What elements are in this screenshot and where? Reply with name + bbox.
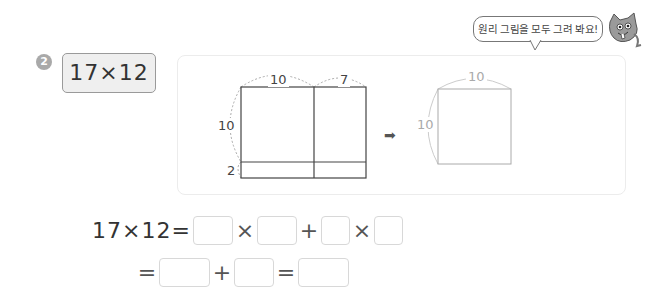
answer-box-b2[interactable] <box>234 258 274 287</box>
label-right-side-10: 10 <box>417 117 434 132</box>
label-top-7: 7 <box>338 72 350 87</box>
equals-sign-2: = <box>274 260 298 285</box>
answer-box-b1[interactable] <box>159 258 210 287</box>
answer-box-a2[interactable] <box>257 216 297 245</box>
speech-bubble-tail <box>529 40 543 52</box>
label-side-10: 10 <box>218 118 235 133</box>
plus-sign-2: + <box>210 260 234 285</box>
label-right-top-10: 10 <box>466 69 487 84</box>
answer-box-a4[interactable] <box>374 216 403 245</box>
speech-bubble: 원리 그림을 모두 그려 봐요! <box>473 16 603 42</box>
problem-expression: 17×12 <box>62 53 156 93</box>
label-top-10: 10 <box>268 72 289 87</box>
equals-sign: = <box>135 260 159 285</box>
answer-box-b3[interactable] <box>298 258 349 287</box>
square-drawing-area[interactable] <box>420 70 520 170</box>
times-sign-2: × <box>350 218 374 243</box>
cat-mascot-icon <box>606 12 646 48</box>
answer-box-a1[interactable] <box>193 216 233 245</box>
plus-sign: + <box>297 218 321 243</box>
equation-line-1: 17×12= × + × <box>92 216 403 245</box>
answer-box-a3[interactable] <box>321 216 350 245</box>
right-arrow-icon: ➡ <box>384 127 396 143</box>
problem-number-badge: 2 <box>36 54 52 70</box>
equation-line-2: = + = <box>135 258 349 287</box>
equation-lhs: 17×12= <box>92 218 191 243</box>
times-sign: × <box>233 218 257 243</box>
label-side-2: 2 <box>227 163 235 178</box>
area-model-diagram <box>215 75 375 185</box>
